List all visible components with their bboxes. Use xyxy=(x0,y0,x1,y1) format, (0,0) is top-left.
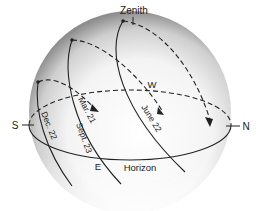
celestial-sphere-diagram: Zenith S N W E Horizon Dec. 22 Mar. 21 S… xyxy=(0,0,259,211)
south-label: S xyxy=(12,120,19,131)
sun-dot-icon xyxy=(70,38,74,42)
zenith-label: Zenith xyxy=(120,5,148,16)
sun-dot-icon xyxy=(121,19,125,23)
west-label: W xyxy=(148,79,157,90)
north-label: N xyxy=(242,121,249,132)
east-label: E xyxy=(95,161,101,172)
sun-dot-icon xyxy=(36,80,40,84)
horizon-label: Horizon xyxy=(124,162,157,173)
